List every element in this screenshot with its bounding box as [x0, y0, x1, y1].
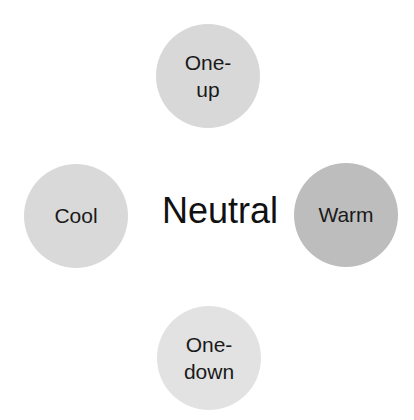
- node-one-up: One- up: [156, 24, 260, 128]
- node-cool: Cool: [24, 164, 128, 268]
- center-label: Neutral: [140, 190, 300, 232]
- node-one-down: One- down: [157, 306, 261, 410]
- node-one-up-line2: up: [185, 76, 232, 103]
- node-cool-label: Cool: [54, 202, 97, 229]
- node-warm-label: Warm: [318, 201, 373, 228]
- node-one-up-line1: One-: [185, 49, 232, 76]
- node-one-down-line2: down: [184, 358, 234, 385]
- node-one-down-line1: One-: [184, 331, 234, 358]
- node-warm: Warm: [294, 163, 398, 267]
